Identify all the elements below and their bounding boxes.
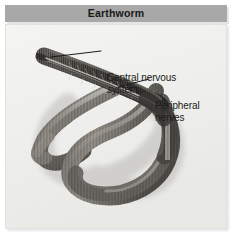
earthworm-photograph — [6, 25, 226, 228]
earthworm-photo-plate: Central nervous system Peripheral nerves — [5, 24, 227, 229]
figure-title-bar: Earthworm — [5, 5, 227, 22]
earthworm-figure: Earthworm — [0, 0, 234, 236]
earthworm-specimen — [6, 25, 226, 228]
photo-grain — [6, 25, 226, 228]
figure-title: Earthworm — [5, 5, 227, 22]
callout-label-peripheral-nerves: Peripheral nerves — [155, 100, 227, 123]
callout-label-central-nervous-system: Central nervous system — [107, 72, 203, 95]
